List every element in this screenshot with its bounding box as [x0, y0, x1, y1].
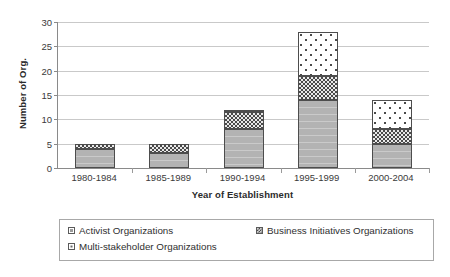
legend-item[interactable]: Multi-stakeholder Organizations [68, 242, 217, 252]
legend-swatch-icon [256, 227, 263, 234]
bar-segment-activist[interactable] [372, 144, 412, 168]
y-axis-tick-label: 10 [26, 114, 52, 125]
x-axis-title: Year of Establishment [57, 189, 428, 200]
bar-stack[interactable] [224, 22, 264, 168]
y-axis-tickmark [54, 22, 58, 23]
bar-stack[interactable] [75, 22, 115, 168]
plot-area [57, 22, 429, 169]
legend-label: Business Initiatives Organizations [267, 226, 413, 236]
bar-segment-business[interactable] [372, 129, 412, 144]
bar-segment-business[interactable] [298, 76, 338, 100]
x-axis-tick-labels: 1980-19841985-19891990-19941995-19992000… [57, 172, 428, 188]
y-axis-tick-labels: 051015202530 [26, 16, 52, 170]
x-axis-tick-label: 2000-2004 [368, 172, 413, 183]
legend-swatch-icon [68, 227, 75, 234]
bar-segment-multi[interactable] [298, 32, 338, 76]
bar-segment-business[interactable] [149, 144, 189, 154]
bar-segment-activist[interactable] [75, 149, 115, 168]
bar-segment-activist[interactable] [298, 100, 338, 168]
bar-segment-business[interactable] [75, 144, 115, 149]
bar-segment-activist[interactable] [224, 129, 264, 168]
y-axis-tick-label: 0 [26, 163, 52, 174]
bar-stack[interactable] [372, 22, 412, 168]
bar-segment-multi[interactable] [224, 110, 264, 112]
x-axis-tick-label: 1990-1994 [220, 172, 265, 183]
y-axis-tickmark [54, 144, 58, 145]
x-axis-tick-label: 1995-1999 [294, 172, 339, 183]
bar-stack[interactable] [298, 22, 338, 168]
x-axis-tick-label: 1980-1984 [71, 172, 116, 183]
y-axis-tick-label: 20 [26, 65, 52, 76]
chart-legend: Activist OrganizationsBusiness Initiativ… [59, 219, 434, 261]
bar-stack[interactable] [149, 22, 189, 168]
y-axis-tickmark [54, 95, 58, 96]
legend-swatch-icon [68, 243, 75, 250]
legend-item[interactable]: Activist Organizations [68, 226, 173, 236]
y-axis-tick-label: 30 [26, 17, 52, 28]
y-axis-tick-label: 5 [26, 138, 52, 149]
x-axis-tick-label: 1985-1989 [146, 172, 191, 183]
bar-segment-activist[interactable] [149, 153, 189, 168]
y-axis-tickmark [54, 119, 58, 120]
x-axis-tickmark [429, 168, 430, 173]
stacked-bar-chart: Number of Org. 051015202530 1980-1984198… [0, 0, 450, 277]
y-axis-tick-label: 15 [26, 90, 52, 101]
y-axis-tickmark [54, 46, 58, 47]
legend-label: Multi-stakeholder Organizations [79, 242, 217, 252]
bar-segment-multi[interactable] [372, 100, 412, 129]
y-axis-tickmark [54, 168, 58, 169]
legend-item[interactable]: Business Initiatives Organizations [256, 226, 413, 236]
legend-label: Activist Organizations [79, 226, 173, 236]
y-axis-tick-label: 25 [26, 41, 52, 52]
bar-segment-business[interactable] [224, 112, 264, 129]
y-axis-tickmark [54, 71, 58, 72]
